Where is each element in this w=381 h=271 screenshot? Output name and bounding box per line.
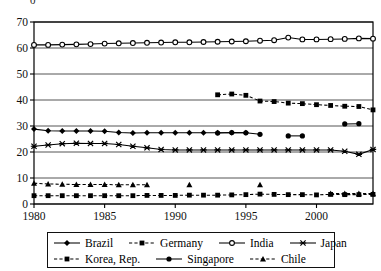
data-point [173,40,178,45]
data-point [328,103,333,108]
series-korea-rep [32,192,376,198]
data-point [116,130,122,136]
data-point [243,93,248,98]
data-point [314,193,319,198]
data-point [74,193,79,198]
legend-item-chile[interactable]: Chile [248,253,306,265]
data-point [186,130,192,136]
data-point [158,147,164,152]
legend-label: Japan [321,237,347,249]
data-point [116,41,121,46]
series-line [34,143,373,154]
data-point [159,193,164,198]
legend-marker-circle-filled-icon [154,253,184,265]
data-point [60,193,65,198]
data-point [356,121,361,126]
y-tick-label: 40 [17,94,29,106]
data-point [201,130,207,136]
data-point [286,35,291,40]
data-point [46,42,51,47]
chart-legend: BrazilGermanyIndiaJapan Korea, Rep.Singa… [47,232,335,268]
legend-row: Korea, Rep.SingaporeChile [52,251,330,267]
y-tick-label: 0 [22,198,28,210]
series-line [218,133,260,135]
data-point [257,132,262,137]
legend-label: Brazil [85,237,113,249]
chart-page: 0 01020304050607019801985199019952000 Br… [0,0,381,271]
legend-label: Chile [281,253,306,265]
data-point [286,133,291,138]
y-tick-label: 70 [17,16,29,28]
data-point [145,193,150,198]
data-point [314,37,319,42]
cutoff-top-label: 0 [30,0,36,6]
data-point [173,193,178,198]
legend-item-korea-rep[interactable]: Korea, Rep. [52,253,140,265]
data-point [229,130,234,135]
legend-item-brazil[interactable]: Brazil [52,237,113,249]
data-point [371,36,376,41]
data-point [144,145,150,150]
legend-item-germany[interactable]: Germany [127,237,203,249]
legend-item-japan[interactable]: Japan [288,237,347,249]
data-point [201,193,206,198]
data-point [101,141,107,146]
data-point [186,182,192,188]
data-point [187,40,192,45]
legend-marker-square-icon [127,237,157,249]
data-point [102,128,108,134]
y-tick-label: 30 [17,120,29,132]
data-point [130,41,135,46]
x-tick-label: 1985 [93,210,116,220]
data-point [130,193,135,198]
data-point [215,193,220,198]
series-india [32,35,376,47]
data-point [356,36,361,41]
data-point [243,39,248,44]
series-line [218,94,373,110]
data-point [159,40,164,45]
x-tick-label: 1990 [164,210,187,220]
data-point [342,37,347,42]
series-line [34,129,246,133]
data-point [59,128,65,134]
data-point [243,192,248,197]
data-point [158,130,164,136]
y-tick-label: 50 [17,68,29,80]
data-point [286,192,291,197]
data-point [102,41,107,46]
data-point [272,99,277,104]
data-point [32,193,37,198]
data-point [130,182,136,188]
series-germany [215,92,375,113]
data-point [59,181,65,187]
data-point [88,193,93,198]
legend-label: Korea, Rep. [85,253,140,265]
data-point [371,107,376,112]
legend-item-singapore[interactable]: Singapore [154,253,234,265]
data-point [144,130,150,136]
data-point [342,149,348,154]
legend-item-india[interactable]: India [217,237,274,249]
data-point [258,38,263,43]
series-singapore [215,121,361,138]
data-point [300,37,305,42]
data-point [116,142,122,147]
data-point [300,101,305,106]
data-point [46,193,51,198]
legend-label: Singapore [187,253,234,265]
data-point [300,192,305,197]
data-point [102,193,107,198]
data-point [257,182,263,188]
data-point [243,130,248,135]
y-tick-label: 10 [17,172,29,184]
data-point [272,38,277,43]
data-point [314,102,319,107]
x-tick-label: 1995 [234,210,257,220]
y-tick-label: 60 [17,42,29,54]
data-point [45,128,51,134]
data-point [258,192,263,197]
x-tick-label: 2000 [305,210,328,220]
data-point [130,144,136,149]
x-tick-label: 1980 [23,210,46,220]
